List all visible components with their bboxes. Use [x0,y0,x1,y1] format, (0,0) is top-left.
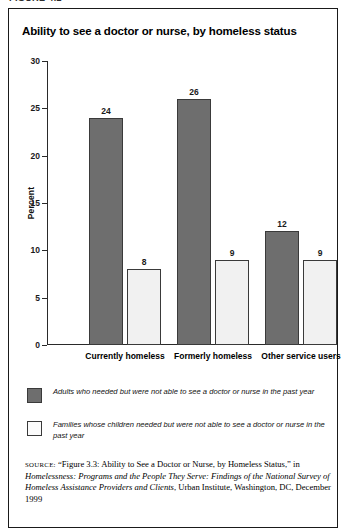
bar-value-label: 9 [318,248,323,258]
bar-group: 129Other service users [265,61,337,345]
y-tick-mark [42,108,47,109]
y-tick-label: 10 [31,245,40,255]
y-tick-label: 25 [31,103,40,113]
plot-area: Percent 051015202530 248Currently homele… [47,61,329,345]
legend-label: Adults who needed but were not able to s… [53,387,333,398]
bar-group: 248Currently homeless [89,61,161,345]
bar: 12 [265,231,299,345]
y-tick-mark [42,298,47,299]
source-note: SOURCE: “Figure 3.3: Ability to See a Do… [25,459,331,505]
legend-swatch-light-icon [27,421,42,436]
chart-legend: Adults who needed but were not able to s… [27,387,333,453]
legend-swatch-dark-icon [27,388,42,403]
x-axis-left-cap [47,341,48,345]
y-tick-mark [42,203,47,204]
y-tick-label: 20 [31,151,40,161]
bar-group: 269Formerly homeless [177,61,249,345]
y-tick-label: 30 [31,56,40,66]
legend-item: Adults who needed but were not able to s… [27,387,333,413]
legend-label: Families whose children needed but were … [53,420,333,441]
figure-frame: Ability to see a doctor or nurse, by hom… [8,8,338,528]
source-kicker: SOURCE: [25,461,56,468]
source-part-one: “Figure 3.3: Ability to See a Doctor or … [58,459,300,469]
y-tick-label: 5 [35,293,40,303]
bar: 8 [127,269,161,345]
x-category-label: Other service users [256,351,346,362]
bar-value-label: 26 [189,87,198,97]
y-tick-mark [42,345,47,346]
bar-value-label: 12 [277,219,286,229]
y-tick-mark [42,156,47,157]
legend-item: Families whose children needed but were … [27,420,333,446]
y-tick-label: 15 [31,198,40,208]
x-category-label: Formerly homeless [168,351,258,362]
figure-caption: FIGURE 4.2 [9,0,62,3]
bar-value-label: 8 [142,257,147,267]
bar-value-label: 24 [101,106,110,116]
chart-title: Ability to see a doctor or nurse, by hom… [22,25,322,37]
y-tick-label: 0 [35,340,40,350]
bar: 26 [177,99,211,345]
y-tick-mark [42,250,47,251]
bar: 24 [89,118,123,345]
y-tick-mark [42,61,47,62]
bar-value-label: 9 [230,248,235,258]
y-axis-line [47,61,48,345]
x-category-label: Currently homeless [80,351,170,362]
bar: 9 [303,260,337,345]
bar: 9 [215,260,249,345]
